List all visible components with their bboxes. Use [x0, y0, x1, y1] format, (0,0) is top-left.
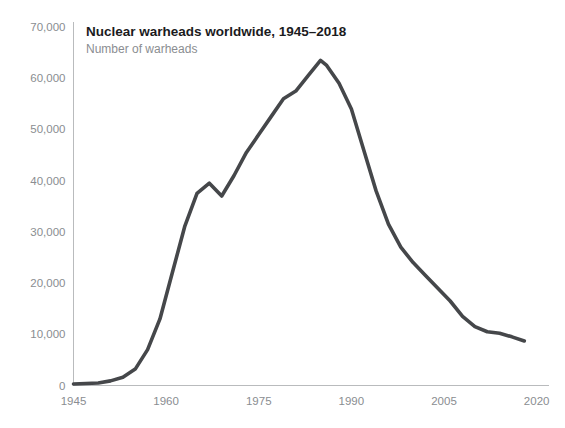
- x-tick-1960: 1960: [153, 395, 179, 407]
- nuclear-warheads-line-chart: Nuclear warheads worldwide, 1945–2018 Nu…: [0, 0, 565, 428]
- y-tick-0: 0: [59, 380, 65, 392]
- y-tick-50000: 50,000: [30, 123, 65, 135]
- warheads-data-line: [74, 60, 525, 384]
- x-tick-1945: 1945: [61, 395, 87, 407]
- x-tick-1990: 1990: [339, 395, 365, 407]
- y-tick-60000: 60,000: [30, 72, 65, 84]
- chart-title: Nuclear warheads worldwide, 1945–2018: [86, 24, 347, 39]
- y-tick-70000: 70,000: [30, 21, 65, 33]
- x-tick-2005: 2005: [431, 395, 457, 407]
- x-axis-tick-labels: 194519601975199020052020: [61, 395, 550, 407]
- y-axis-tick-labels: 010,00020,00030,00040,00050,00060,00070,…: [30, 21, 65, 392]
- x-tick-1975: 1975: [246, 395, 272, 407]
- y-tick-30000: 30,000: [30, 226, 65, 238]
- x-tick-2020: 2020: [524, 395, 550, 407]
- chart-subtitle: Number of warheads: [86, 42, 197, 56]
- y-tick-20000: 20,000: [30, 277, 65, 289]
- y-tick-10000: 10,000: [30, 328, 65, 340]
- chart-container: Nuclear warheads worldwide, 1945–2018 Nu…: [0, 0, 565, 428]
- y-tick-40000: 40,000: [30, 175, 65, 187]
